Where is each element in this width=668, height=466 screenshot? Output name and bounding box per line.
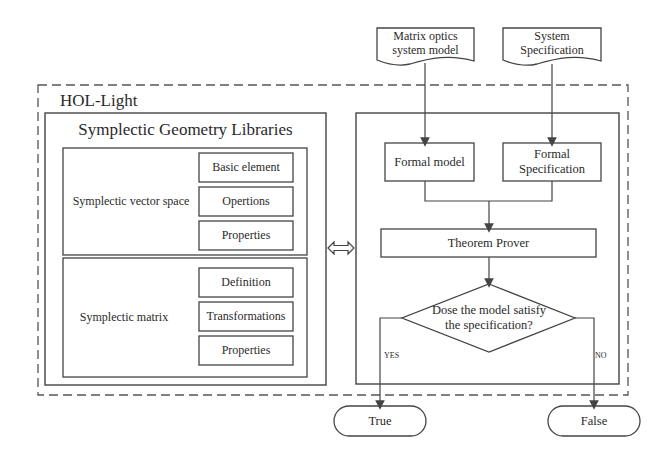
false-label: False [548, 406, 640, 436]
lib-item-opertions: Opertions [199, 187, 293, 216]
model-document-label: Matrix optics system model [377, 29, 474, 57]
yes-label: YES [384, 350, 399, 362]
vector-space-label: Symplectic vector space [63, 148, 199, 255]
lib-item-basic-element: Basic element [199, 153, 293, 182]
lib-item-vector-properties: Properties [199, 221, 293, 250]
spec-document-label: System Specification [503, 29, 601, 57]
no-label: NO [595, 350, 607, 362]
bidirectional-arrow-icon [328, 242, 354, 254]
formal-model-label: Formal model [385, 143, 474, 181]
hol-light-label: HOL-Light [60, 90, 137, 112]
lib-item-definition: Definition [199, 268, 293, 297]
lib-item-matrix-properties: Properties [199, 336, 293, 365]
lib-item-transformations: Transformations [199, 302, 293, 331]
true-label: True [334, 406, 426, 436]
matrix-label: Symplectic matrix [63, 258, 185, 377]
libraries-title: Symplectic Geometry Libraries [45, 119, 326, 141]
decision-label: Dose the model satisfy the specification… [420, 302, 558, 334]
formal-spec-label: Formal Specification [503, 143, 601, 181]
theorem-prover-label: Theorem Prover [381, 229, 596, 257]
